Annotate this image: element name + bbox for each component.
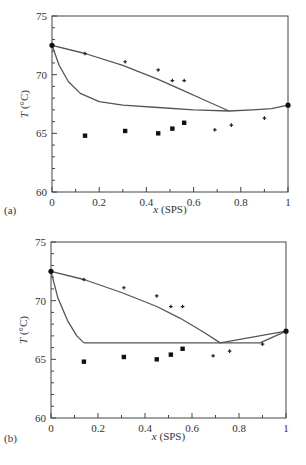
curve-line bbox=[220, 331, 286, 343]
figure: 6065707500.20.40.60.81x (SPS)T (°C)(a) 6… bbox=[0, 0, 306, 465]
plus-marker bbox=[122, 286, 126, 290]
square-marker bbox=[169, 352, 173, 356]
x-tick-label: 1 bbox=[285, 196, 291, 208]
y-tick-label: 65 bbox=[35, 353, 47, 365]
y-axis-label: T (°C) bbox=[17, 316, 30, 344]
plus-marker bbox=[181, 305, 185, 309]
plus-marker bbox=[213, 128, 217, 132]
plus-marker bbox=[182, 79, 186, 83]
plot-frame bbox=[51, 242, 286, 418]
pure-point-marker bbox=[283, 329, 288, 334]
square-marker bbox=[182, 121, 186, 125]
x-axis-label: x (SPS) bbox=[152, 203, 187, 216]
pure-point-marker bbox=[48, 269, 53, 274]
x-tick-label: 0.4 bbox=[138, 422, 152, 434]
y-tick-label: 75 bbox=[36, 10, 48, 22]
x-tick-label: 0.8 bbox=[232, 422, 246, 434]
plus-marker bbox=[83, 52, 87, 56]
square-marker bbox=[156, 131, 160, 135]
plus-marker bbox=[211, 354, 215, 358]
x-tick-label: 0.6 bbox=[185, 422, 199, 434]
x-axis-label: x (SPS) bbox=[151, 430, 186, 443]
x-tick-label: 0.2 bbox=[92, 196, 106, 208]
pure-point-marker bbox=[285, 103, 290, 108]
square-marker bbox=[155, 357, 159, 361]
x-tick-label: 0.4 bbox=[140, 196, 154, 208]
x-tick-label: 0 bbox=[49, 196, 55, 208]
x-tick-label: 0.6 bbox=[187, 196, 201, 208]
pure-point-marker bbox=[49, 43, 54, 48]
x-tick-label: 1 bbox=[283, 422, 289, 434]
y-tick-label: 70 bbox=[36, 69, 48, 81]
plus-marker bbox=[155, 294, 159, 298]
square-marker bbox=[122, 355, 126, 359]
plot-frame bbox=[52, 16, 288, 192]
curve-line bbox=[51, 271, 84, 343]
plus-marker bbox=[228, 349, 232, 353]
curve-line bbox=[52, 45, 229, 111]
plus-marker bbox=[82, 278, 86, 282]
y-tick-label: 75 bbox=[35, 236, 47, 248]
y-tick-label: 65 bbox=[36, 127, 48, 139]
panel-label: (b) bbox=[4, 432, 17, 445]
x-tick-label: 0.8 bbox=[234, 196, 248, 208]
curve-line bbox=[52, 45, 229, 111]
square-marker bbox=[180, 347, 184, 351]
plus-marker bbox=[230, 123, 234, 127]
curve-line bbox=[229, 105, 288, 111]
plus-marker bbox=[156, 68, 160, 72]
curve-line bbox=[51, 271, 220, 343]
plus-marker bbox=[123, 60, 127, 64]
panel-a: 6065707500.20.40.60.81x (SPS)T (°C)(a) bbox=[4, 10, 291, 217]
y-tick-label: 70 bbox=[35, 295, 47, 307]
panel-label: (a) bbox=[4, 204, 17, 217]
panel-b: 6065707500.20.40.60.81x (SPS)T (°C)(b) bbox=[4, 236, 289, 445]
y-tick-label: 60 bbox=[36, 186, 48, 198]
plus-marker bbox=[171, 79, 175, 83]
plus-marker bbox=[263, 116, 267, 120]
y-tick-label: 60 bbox=[35, 412, 47, 424]
square-marker bbox=[123, 129, 127, 133]
plus-marker bbox=[169, 305, 173, 309]
square-marker bbox=[83, 133, 87, 137]
x-tick-label: 0 bbox=[48, 422, 54, 434]
x-tick-label: 0.2 bbox=[91, 422, 105, 434]
y-axis-label: T (°C) bbox=[18, 90, 31, 118]
square-marker bbox=[170, 126, 174, 130]
square-marker bbox=[82, 359, 86, 363]
